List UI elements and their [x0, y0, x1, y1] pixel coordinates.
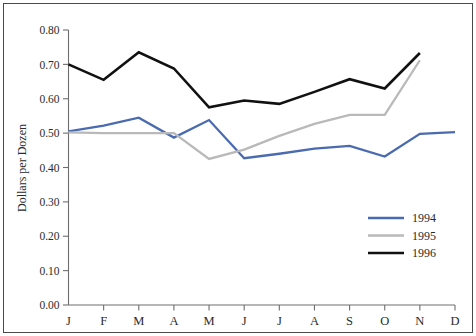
y-tick-label: 0.80 [39, 24, 59, 36]
y-tick-label: 0.60 [39, 93, 59, 105]
x-tick-label-a-7: A [310, 314, 319, 328]
x-tick-label-j-5: J [242, 314, 247, 328]
y-axis: 0.800.700.600.500.400.300.200.100.00 [39, 24, 68, 311]
y-axis-title: Dollars per Dozen [15, 124, 29, 212]
y-axis-title-text: Dollars per Dozen [15, 124, 29, 212]
x-tick-label-j-6: J [277, 314, 282, 328]
y-tick-label: 0.10 [39, 265, 59, 277]
x-axis: JFMAMJJASOND [66, 305, 459, 328]
y-tick-label: 0.40 [39, 162, 59, 174]
x-tick-label-n-10: N [415, 314, 424, 328]
legend-label-1995: 1995 [412, 229, 436, 243]
x-tick-label-m-2: M [133, 314, 144, 328]
x-tick-label-s-8: S [346, 314, 353, 328]
y-tick-label: 0.20 [39, 230, 59, 242]
series-line-1994 [69, 118, 456, 159]
y-tick-label: 0.70 [39, 59, 59, 71]
x-tick-label-a-3: A [169, 314, 178, 328]
legend-label-1996: 1996 [412, 246, 436, 260]
chart-figure: 0.800.700.600.500.400.300.200.100.00 JFM… [0, 0, 476, 336]
line-chart: 0.800.700.600.500.400.300.200.100.00 JFM… [0, 0, 476, 336]
x-tick-label-m-4: M [203, 314, 214, 328]
x-tick-label-j-0: J [66, 314, 71, 328]
y-tick-label: 0.50 [39, 127, 59, 139]
series-line-1996 [69, 52, 420, 107]
x-tick-label-f-1: F [100, 314, 107, 328]
legend-label-1994: 1994 [412, 211, 436, 225]
y-tick-label: 0.30 [39, 196, 59, 208]
x-tick-label-o-9: O [380, 314, 389, 328]
y-tick-label: 0.00 [39, 299, 59, 311]
chart-legend: 199419951996 [368, 211, 436, 260]
series-lines [69, 52, 456, 159]
series-line-1995 [69, 60, 420, 159]
x-tick-label-d-11: D [450, 314, 459, 328]
